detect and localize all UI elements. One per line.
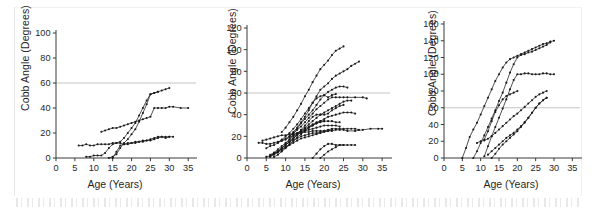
series-point [327, 59, 329, 61]
x-tick-label: 15 [494, 163, 504, 173]
series-point [327, 109, 329, 111]
series-point [288, 141, 290, 143]
series-point [342, 144, 344, 146]
series-point [315, 95, 317, 97]
series-point [498, 148, 500, 150]
series-point [304, 95, 306, 97]
series-point [327, 150, 329, 152]
x-tick-label: 20 [512, 163, 522, 173]
series-point [265, 147, 267, 149]
series-point [342, 70, 344, 72]
series-point [315, 75, 317, 77]
series-point [315, 108, 317, 110]
series-point [319, 98, 321, 100]
series-point [331, 124, 333, 126]
series-point [285, 142, 287, 144]
series-point [315, 104, 317, 106]
series-point [108, 143, 110, 145]
series-point [527, 72, 529, 74]
series-point [339, 113, 341, 115]
series-point [315, 127, 317, 129]
series-point [115, 142, 117, 144]
series-point [520, 54, 522, 56]
series-line [101, 107, 188, 132]
series-point [296, 129, 298, 131]
series-point [331, 96, 333, 98]
series-point [546, 97, 548, 99]
series-point [505, 140, 507, 142]
series-point [335, 107, 337, 109]
series-point [498, 100, 500, 102]
series-point [335, 105, 337, 107]
series-point [331, 143, 333, 145]
series-point [323, 145, 325, 147]
series-point [339, 126, 341, 128]
series-point [323, 118, 325, 120]
series-point [335, 96, 337, 98]
series-point [308, 135, 310, 137]
series-point [292, 142, 294, 144]
series-line [462, 41, 554, 158]
series-point [115, 151, 117, 153]
series-point [531, 73, 533, 75]
series-point [505, 122, 507, 124]
series-point [350, 144, 352, 146]
series-point [288, 139, 290, 141]
x-tick-label: 30 [549, 163, 559, 173]
series-point [487, 97, 489, 99]
series-point [108, 147, 110, 149]
series-point [89, 156, 91, 158]
series-point [300, 122, 302, 124]
series-point [331, 54, 333, 56]
series-point [476, 122, 478, 124]
chart-panel-1: Cobb Angle (Degrees) Age (Years) 0204060… [0, 0, 197, 209]
series-point [502, 140, 504, 142]
series-point [78, 144, 80, 146]
series-point [524, 106, 526, 108]
series-point [273, 156, 275, 158]
series-point [335, 124, 337, 126]
y-tick-label: 120 [423, 53, 438, 63]
series-point [335, 144, 337, 146]
series-point [112, 127, 114, 129]
series-point [308, 133, 310, 135]
series-point [292, 116, 294, 118]
series-point [531, 99, 533, 101]
series-point [502, 92, 504, 94]
series-point [494, 126, 496, 128]
series-point [487, 126, 489, 128]
series-point [319, 114, 321, 116]
series-point [142, 112, 144, 114]
series-point [138, 114, 140, 116]
series-point [535, 73, 537, 75]
series-point [300, 133, 302, 135]
series-point [281, 140, 283, 142]
series-point [285, 144, 287, 146]
series-point [516, 90, 518, 92]
series-point [327, 98, 329, 100]
series-point [277, 148, 279, 150]
series-point [153, 138, 155, 140]
series-point [487, 130, 489, 132]
series-point [292, 140, 294, 142]
series-point [104, 143, 106, 145]
series-point [505, 137, 507, 139]
series-point [339, 128, 341, 130]
series-point [265, 139, 267, 141]
series-point [315, 117, 317, 119]
y-tick-label: 80 [40, 53, 50, 63]
series-point [131, 122, 133, 124]
series-point [520, 126, 522, 128]
series-point [149, 139, 151, 141]
series-point [524, 122, 526, 124]
series-point [498, 104, 500, 106]
series-point [527, 51, 529, 53]
series-point [319, 105, 321, 107]
series-point [142, 107, 144, 109]
series-point [312, 130, 314, 132]
x-tick-label: 20 [319, 163, 329, 173]
series-point [273, 152, 275, 154]
series-point [138, 141, 140, 143]
y-tick-label: 60 [40, 78, 50, 88]
x-tick-label: 5 [460, 163, 465, 173]
